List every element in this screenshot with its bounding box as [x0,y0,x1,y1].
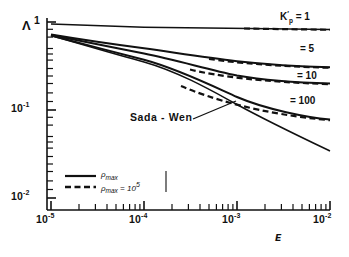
legend-value-base: 10 [127,184,136,193]
x-tick-label-10e-4: 10-4 [129,212,148,225]
legend-value-exp: 5 [136,181,140,188]
x-tick-10e-2-exp: -2 [325,212,332,219]
figure-log-log-plot: Λ 1 10-1 10-2 10-5 10-4 10-3 10-2 ᴇ K′p … [0,0,349,257]
annotation-sada-wen: Sada - Wen [130,111,192,123]
x-tick-10e-4-base: 10 [129,213,141,225]
x-axis-minor-ticks [79,204,326,210]
curve-label-kp-100: = 100 [290,95,315,106]
curve-kp-1-solid [51,24,330,29]
x-axis-major-ticks [51,201,330,210]
y-tick-10e-2-base: 10 [11,190,23,202]
curve-label-kp-1: K′p = 1 [280,10,310,24]
x-axis-title: ᴇ [275,230,281,244]
x-tick-10e-5-exp: -5 [48,212,55,219]
sada-wen-leader-line [193,101,236,119]
y-tick-10e-1-base: 10 [11,102,23,114]
legend-rho-dashed-sub: max [106,187,118,194]
y-tick-label-1: 1 [34,14,40,26]
curve-sada-wen [51,36,330,152]
kp-1-value: = 1 [296,11,310,22]
legend-equals: = [120,184,125,193]
kp-subscript: p [289,17,293,24]
curve-kp-5-solid [51,35,330,68]
legend-dashed-label: ρmax = 105 [101,181,140,194]
x-tick-10e-3-base: 10 [222,213,234,225]
y-tick-10e-1-exp: -1 [23,101,30,108]
y-axis-title: Λ [22,18,31,33]
legend-rho-solid-sub: max [106,174,118,181]
x-tick-label-10e-5: 10-5 [36,212,55,225]
x-tick-10e-5-base: 10 [36,213,48,225]
y-tick-10e-2-exp: -2 [23,189,30,196]
kp-prime: ′ [287,10,289,17]
x-tick-label-10e-3: 10-3 [222,212,241,225]
curve-label-kp-5: = 5 [300,43,314,54]
legend-solid-label: ρmax [101,170,118,181]
x-tick-label-10e-2: 10-2 [313,212,332,225]
y-tick-label-10e-1: 10-1 [11,101,30,114]
x-tick-10e-4-exp: -4 [141,212,148,219]
y-tick-label-10e-2: 10-2 [11,189,30,202]
curve-label-kp-10: = 10 [297,70,317,81]
x-tick-10e-2-base: 10 [313,213,325,225]
x-tick-10e-3-exp: -3 [234,212,241,219]
